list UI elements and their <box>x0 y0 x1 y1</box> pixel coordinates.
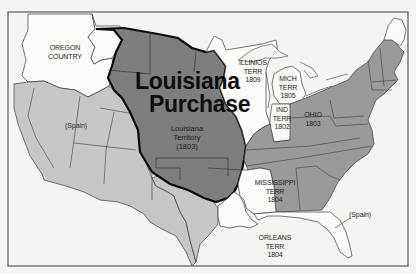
label-mississippi-territory: MISSISSIPPI TERR 1804 <box>255 179 296 205</box>
label-indiana-territory: IND TERR 1802 <box>273 106 292 132</box>
label-orleans-territory: ORLEANS TERR 1804 <box>259 234 292 260</box>
map-title-line1: Louisiana <box>135 69 240 93</box>
label-michigan-territory: MICH TERR 1805 <box>279 75 298 101</box>
label-oregon-country: OREGON COUNTRY <box>48 44 82 61</box>
label-ohio: OHIO 1803 <box>304 111 322 128</box>
louisiana-purchase-map: OREGON COUNTRY (Spain) Louisiana Purchas… <box>0 0 416 274</box>
label-louisiana-territory: Louisiana Territory (1803) <box>171 124 203 151</box>
map-title-line2: Purchase <box>149 92 250 116</box>
map-graphic <box>0 0 416 274</box>
label-spain-west: (Spain) <box>65 122 87 131</box>
label-spain-florida: (Spain) <box>349 211 371 220</box>
label-illinois-territory: ILLINIOS TERR 1809 <box>239 59 267 85</box>
